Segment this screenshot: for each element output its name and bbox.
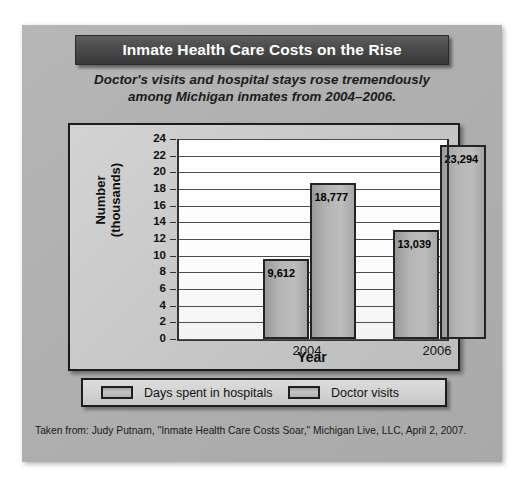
- y-axis-tick-label: 24: [140, 133, 166, 145]
- bar-value-label: 9,612: [268, 268, 296, 279]
- bar-value-label: 23,294: [445, 154, 479, 165]
- plot-right-border: [447, 139, 449, 341]
- source-citation: Taken from: Judy Putnam, "Inmate Health …: [35, 425, 466, 436]
- legend-label: Doctor visits: [331, 386, 399, 400]
- y-axis-tick-label: 8: [140, 266, 166, 278]
- y-axis-tick-mark: [170, 139, 176, 140]
- gridline: [179, 156, 449, 157]
- y-axis-tick-mark: [170, 172, 176, 173]
- y-axis-tick-mark: [170, 189, 176, 190]
- y-axis-tick-mark: [170, 156, 176, 157]
- y-axis-tick-label: 18: [140, 183, 166, 195]
- y-axis-tick-mark: [170, 206, 176, 207]
- gridline: [179, 172, 449, 173]
- legend-entry: Doctor visits: [288, 386, 399, 400]
- y-axis-title-line-2: (thousands): [108, 140, 123, 260]
- legend-swatch-icon: [101, 386, 133, 399]
- y-axis-tick-label: 4: [140, 300, 166, 312]
- y-axis-tick-label: 10: [140, 250, 166, 262]
- y-axis-tick-label: 6: [140, 283, 166, 295]
- y-axis-tick-mark: [170, 222, 176, 223]
- y-axis-tick-mark: [170, 322, 176, 323]
- chart-legend: Days spent in hospitalsDoctor visits: [81, 378, 447, 407]
- chart-title-banner: Inmate Health Care Costs on the Rise: [75, 35, 449, 65]
- figure-card: Inmate Health Care Costs on the Rise Doc…: [22, 25, 502, 462]
- chart-subtitle-line-1: Doctor's visits and hospital stays rose …: [56, 71, 468, 88]
- gridline: [179, 139, 449, 140]
- bar-value-label: 13,039: [398, 239, 432, 250]
- chart-subtitle-line-2: among Michigan inmates from 2004–2006.: [56, 88, 468, 105]
- y-axis-tick-mark: [170, 272, 176, 273]
- chart-plot-frame: Number (thousands) 242220181614121086420…: [68, 123, 460, 371]
- y-axis-tick-label: 0: [140, 333, 166, 345]
- y-axis-tick-mark: [170, 306, 176, 307]
- y-axis-tick-mark: [170, 239, 176, 240]
- y-axis-title: Number (thousands): [93, 140, 123, 260]
- chart-subtitle: Doctor's visits and hospital stays rose …: [56, 71, 468, 105]
- y-axis-tick-mark: [170, 289, 176, 290]
- y-axis-tick-label: 20: [140, 166, 166, 178]
- y-axis-tick-mark: [170, 339, 176, 340]
- y-axis-tick-label: 16: [140, 200, 166, 212]
- legend-entry: Days spent in hospitals: [101, 386, 273, 400]
- page-title: Inmate Health Care Costs on the Rise: [122, 41, 401, 59]
- plot-area: 9,61218,77713,03923,294: [177, 139, 449, 341]
- y-axis-tick-mark: [170, 256, 176, 257]
- legend-label: Days spent in hospitals: [144, 386, 273, 400]
- y-axis-tick-label: 14: [140, 216, 166, 228]
- gridline: [179, 339, 449, 340]
- y-axis-tick-label: 22: [140, 150, 166, 162]
- legend-swatch-icon: [288, 386, 320, 399]
- x-axis-title: Year: [177, 349, 447, 365]
- bar: [310, 183, 356, 339]
- y-axis-title-line-1: Number: [93, 140, 108, 260]
- y-axis-tick-label: 2: [140, 316, 166, 328]
- y-axis-tick-label: 12: [140, 233, 166, 245]
- bar-value-label: 18,777: [315, 192, 349, 203]
